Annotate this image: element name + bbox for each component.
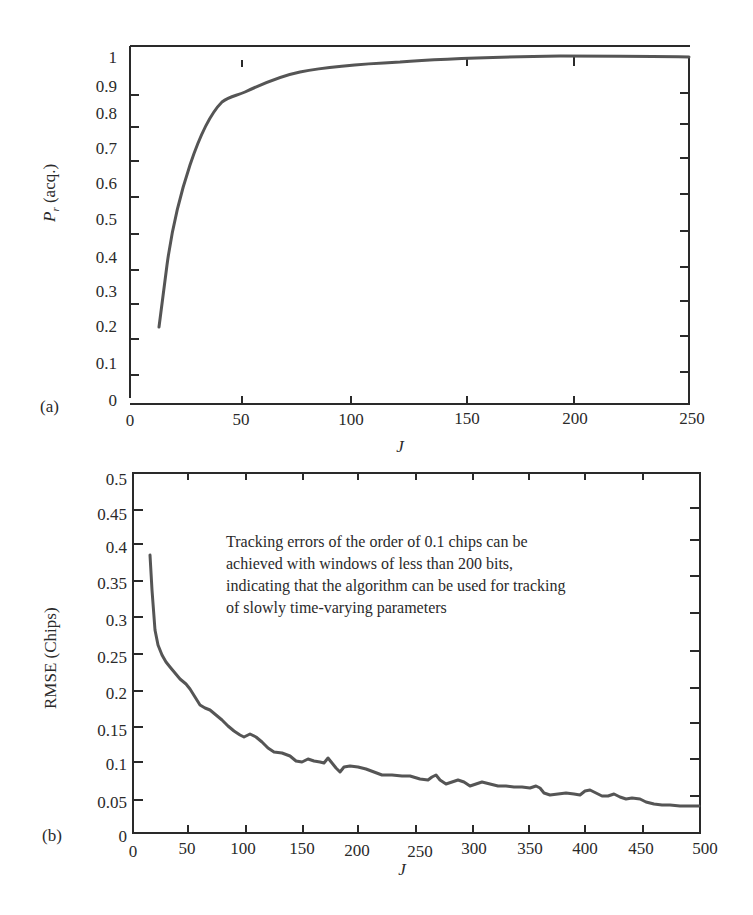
chart-b-y-ticks [133,510,143,800]
y-tick-label: 0.8 [96,104,117,123]
y-tick-label: 0.2 [96,317,117,336]
chart-b-y-labels: 0.5 0.45 0.4 0.35 0.3 0.25 0.2 0.15 0.1 … [97,470,127,846]
y-tick-label: 0.05 [97,793,127,812]
x-tick-label: 450 [628,839,654,858]
y-title-rest: (acq.) [40,164,59,207]
y-tick-label: 0.35 [97,574,127,593]
y-tick-label: 0.2 [106,684,127,703]
y-tick-label: 0.5 [106,470,127,489]
chart-a-x-labels: 0 50 100 150 200 250 [126,409,705,430]
y-tick-label: 0.7 [96,139,118,158]
x-tick-label: 250 [407,842,433,861]
x-tick-label: 300 [461,839,487,858]
y-tick-label: 0.3 [96,282,117,301]
x-tick-label: 500 [692,839,718,858]
y-tick-label: 0.4 [106,538,128,557]
chart-a-y-ticks [130,95,139,375]
x-tick-label: 150 [289,839,315,858]
chart-b-x-ticks [188,825,643,833]
x-tick-label: 50 [179,839,196,858]
x-tick-label: 50 [233,410,250,429]
x-tick-label: 400 [572,839,598,858]
chart-a-x-title: J [396,437,405,456]
x-tick-label: 150 [454,409,480,428]
chart-b-top-ticks [188,473,643,480]
chart-a-panel-label: (a) [40,397,59,416]
annotation-line: Tracking errors of the order of 0.1 chip… [226,533,528,551]
chart-b-panel-label: (b) [42,826,62,845]
annotation-line: achieved with windows of less than 200 b… [226,555,513,572]
y-tick-label: 0.3 [106,611,127,630]
chart-b: 0.5 0.45 0.4 0.35 0.3 0.25 0.2 0.15 0.1 … [41,470,718,879]
y-tick-label: 0.1 [106,755,127,774]
chart-a-y-title: Pr (acq.) [40,164,61,223]
chart-a-x-ticks [242,396,574,404]
x-tick-label: 100 [230,839,256,858]
y-title-main: P [40,212,59,223]
chart-a: 1 0.9 0.8 0.7 0.6 0.5 0.4 0.3 0.2 0.1 0 … [40,46,705,456]
y-tick-label: 1 [109,48,118,67]
chart-a-curve [159,56,689,327]
x-tick-label: 200 [344,841,370,860]
annotation-line: indicating that the algorithm can be use… [226,577,565,595]
svg-text:Pr (acq.): Pr (acq.) [40,164,61,223]
x-tick-label: 200 [562,409,588,428]
y-tick-label: 0.9 [96,77,117,96]
chart-b-x-title: J [398,860,407,879]
y-tick-label: 0.45 [97,505,127,524]
chart-b-y-title: RMSE (Chips) [41,607,60,709]
x-tick-label: 0 [126,411,135,430]
chart-a-right-ticks [680,93,689,372]
y-tick-label: 0.5 [96,210,117,229]
figure: 1 0.9 0.8 0.7 0.6 0.5 0.4 0.3 0.2 0.1 0 … [0,0,753,915]
annotation-line: of slowly time-varying parameters [226,599,447,617]
y-tick-label: 0.4 [96,248,118,267]
y-tick-label: 0 [109,391,118,410]
x-tick-label: 0 [129,842,138,861]
y-tick-label: 0.25 [97,648,127,667]
y-tick-label: 0.1 [96,354,117,373]
x-tick-label: 100 [338,410,364,429]
chart-b-x-labels: 0 50 100 150 200 250 300 350 400 450 500 [129,839,718,861]
x-tick-label: 250 [679,409,705,428]
y-tick-label: 0 [119,827,128,846]
chart-b-annotation: Tracking errors of the order of 0.1 chip… [226,533,565,617]
chart-a-y-labels: 1 0.9 0.8 0.7 0.6 0.5 0.4 0.3 0.2 0.1 0 [96,48,118,410]
y-tick-label: 0.15 [97,721,127,740]
y-title: RMSE (Chips) [41,607,60,709]
x-tick-label: 350 [517,839,543,858]
chart-b-right-ticks [690,508,700,796]
y-tick-label: 0.6 [96,174,117,193]
